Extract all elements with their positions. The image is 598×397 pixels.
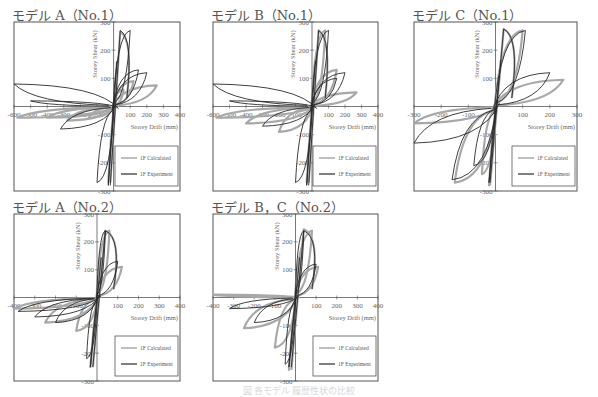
x-tick-label: -400: [207, 302, 220, 310]
x-tick-label: 300: [352, 302, 363, 310]
x-tick-label: 100: [311, 302, 322, 310]
figure-caption: 図 各モデル 履歴性状の比較: [0, 384, 598, 397]
legend: 1F Calculated1F Experiment: [313, 336, 376, 376]
legend-label-experiment: 1F Experiment: [338, 361, 371, 367]
y-tick-label: 300: [282, 211, 293, 219]
legend-label-calculated: 1F Calculated: [338, 345, 369, 351]
x-tick-label: 400: [373, 302, 384, 310]
y-tick-label: 100: [282, 266, 293, 274]
x-tick-label: 200: [332, 302, 343, 310]
y-axis-label: Storey Shear (kN): [273, 222, 281, 269]
y-tick-label: 200: [282, 238, 293, 246]
hysteresis-plot: -400-300-200-100100200300400300200100-10…: [0, 0, 598, 397]
x-axis-label: Storey Drift (mm): [329, 314, 376, 322]
